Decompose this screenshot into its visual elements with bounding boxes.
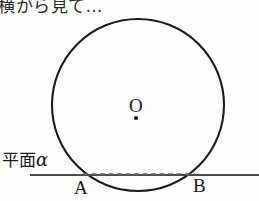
plane-label-text: 平面 xyxy=(2,150,36,170)
point-label-o: O xyxy=(129,96,143,115)
figure-caption-top: 横から見て… xyxy=(0,0,103,15)
plane-alpha-label: 平面α xyxy=(2,151,48,169)
center-point-dot xyxy=(134,116,138,120)
alpha-symbol: α xyxy=(36,149,48,170)
geometry-figure: 横から見て… 平面α O A B xyxy=(0,0,259,201)
point-label-a: A xyxy=(74,178,88,197)
point-label-b: B xyxy=(193,176,206,195)
